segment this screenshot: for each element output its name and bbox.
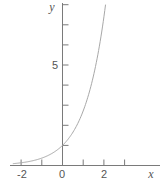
x-axis-label: x — [147, 167, 154, 181]
y-axis: 5 y — [48, 0, 68, 166]
y-axis-ticks — [63, 5, 69, 146]
x-axis: -2 0 2 x — [10, 160, 160, 182]
x-tick-label-0: 0 — [59, 168, 65, 180]
x-tick-label-2: 2 — [101, 168, 107, 180]
exponential-curve — [13, 5, 106, 164]
exponential-chart: -2 0 2 x 5 y — [0, 0, 163, 181]
y-axis-label: y — [48, 0, 55, 14]
x-axis-ticks — [21, 160, 125, 166]
y-tick-label-5: 5 — [52, 59, 58, 71]
x-tick-label-neg2: -2 — [17, 168, 27, 180]
